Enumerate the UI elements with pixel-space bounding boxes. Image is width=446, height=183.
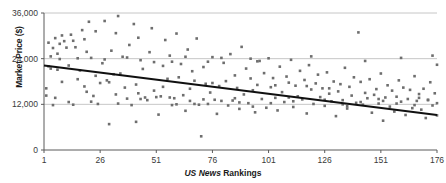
data-points <box>45 15 438 138</box>
x-axis-title-rest: Rankings <box>223 168 261 178</box>
x-tick-label: 51 <box>152 155 161 165</box>
trendline <box>44 66 437 115</box>
x-axis-title: US News Rankings <box>0 168 446 178</box>
x-tick-label: 151 <box>374 155 388 165</box>
x-axis-title-emphasis: US News <box>184 168 220 178</box>
scatter-chart: Market Price ($) 012,00024,00036,000 126… <box>0 0 446 183</box>
axis-lines <box>41 13 437 150</box>
x-tick-label: 1 <box>42 155 47 165</box>
x-tick-label: 126 <box>318 155 332 165</box>
x-tick-label: 101 <box>261 155 275 165</box>
x-tick-label: 26 <box>95 155 104 165</box>
x-tick-label: 176 <box>430 155 444 165</box>
x-tick-label: 76 <box>208 155 217 165</box>
